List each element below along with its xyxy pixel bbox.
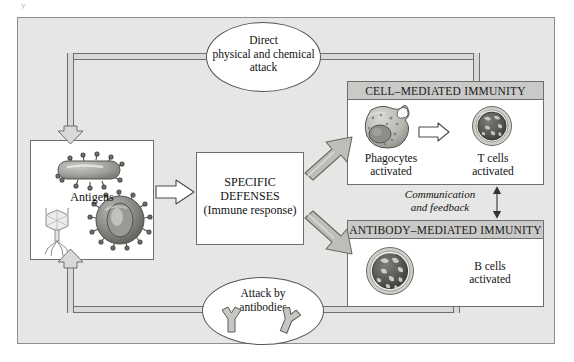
antibody-glyph-layer [0,0,574,362]
antibody-y-glyph-right [275,305,302,335]
figure-canvas: y [0,0,574,362]
antibody-y-glyph-left [222,307,241,332]
